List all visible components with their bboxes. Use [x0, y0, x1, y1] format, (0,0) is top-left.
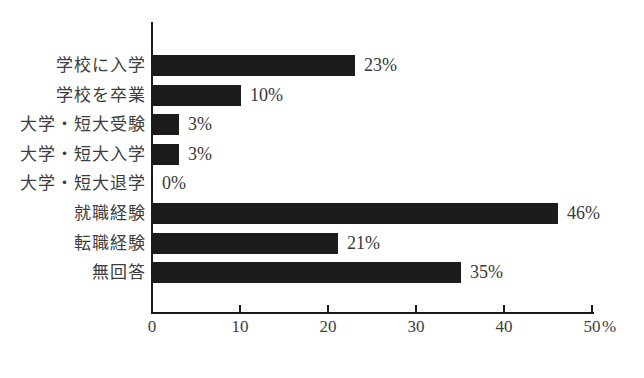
bar	[153, 55, 355, 76]
category-label: 学校を卒業	[0, 85, 146, 106]
x-tick-label: 10	[210, 317, 270, 337]
bar-chart: 学校に入学23%学校を卒業10%大学・短大受験3%大学・短大入学3%大学・短大退…	[0, 0, 644, 378]
value-label: 3%	[188, 144, 212, 165]
bar	[153, 85, 241, 106]
x-tick	[591, 305, 593, 312]
value-label: 21%	[347, 233, 380, 254]
bar	[153, 114, 179, 135]
x-tick-label: 0	[122, 317, 182, 337]
category-label: 就職経験	[0, 203, 146, 224]
value-label: 23%	[364, 55, 397, 76]
x-tick-label: 20	[298, 317, 358, 337]
x-tick-label: 40	[474, 317, 534, 337]
bar	[153, 233, 338, 254]
value-label: 46%	[567, 203, 600, 224]
category-label: 無回答	[0, 262, 146, 283]
category-label: 転職経験	[0, 233, 146, 254]
bar	[153, 203, 558, 224]
value-label: 3%	[188, 114, 212, 135]
x-tick-label: 30	[386, 317, 446, 337]
x-tick	[239, 305, 241, 312]
category-label: 学校に入学	[0, 55, 146, 76]
x-tick	[415, 305, 417, 312]
bar	[153, 262, 461, 283]
value-label: 35%	[470, 262, 503, 283]
category-label: 大学・短大入学	[0, 144, 146, 165]
category-label: 大学・短大退学	[0, 173, 146, 194]
x-tick	[503, 305, 505, 312]
x-axis	[151, 312, 594, 314]
value-label: 0%	[162, 173, 186, 194]
x-axis-unit-label: %	[602, 317, 616, 337]
value-label: 10%	[250, 85, 283, 106]
category-label: 大学・短大受験	[0, 114, 146, 135]
x-tick	[327, 305, 329, 312]
bar	[153, 144, 179, 165]
